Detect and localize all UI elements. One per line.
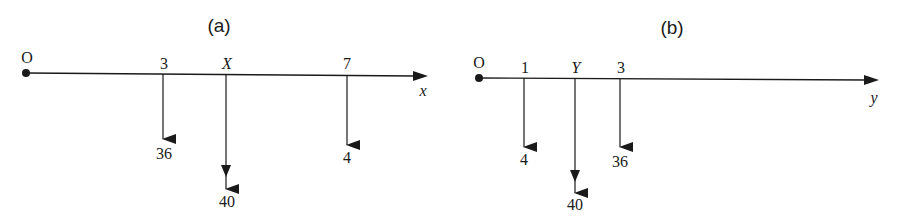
- tick-label-a-2: 7: [343, 56, 351, 72]
- value-label-b-0: 4: [520, 152, 528, 168]
- tick-label-b-0: 1: [521, 60, 529, 76]
- origin-label-b: O: [473, 55, 485, 71]
- tick-label-b-1: Y: [572, 60, 581, 76]
- tick-label-a-1: X: [222, 56, 232, 72]
- x-axis: [26, 73, 415, 76]
- x-axis-arrowhead-icon: [413, 71, 428, 81]
- value-label-a-0: 36: [156, 146, 172, 162]
- panel-b-graphic: [475, 74, 879, 193]
- caption-a: (a): [207, 16, 230, 35]
- value-label-a-2: 4: [343, 150, 351, 166]
- axis-label-x: x: [419, 83, 426, 99]
- origin-label-a: O: [21, 50, 33, 66]
- value-label-b-2: 36: [612, 154, 628, 170]
- panel-a-graphic: [22, 69, 428, 189]
- y-axis: [479, 78, 866, 80]
- value-label-b-1: 40: [567, 197, 583, 213]
- axis-label-y: y: [870, 90, 877, 106]
- diagram-canvas: [0, 0, 897, 223]
- tick-label-b-2: 3: [617, 60, 625, 76]
- caption-b: (b): [660, 18, 683, 37]
- value-label-a-1: 40: [219, 194, 235, 210]
- y-axis-arrowhead-icon: [864, 75, 879, 85]
- tick-label-a-0: 3: [160, 56, 168, 72]
